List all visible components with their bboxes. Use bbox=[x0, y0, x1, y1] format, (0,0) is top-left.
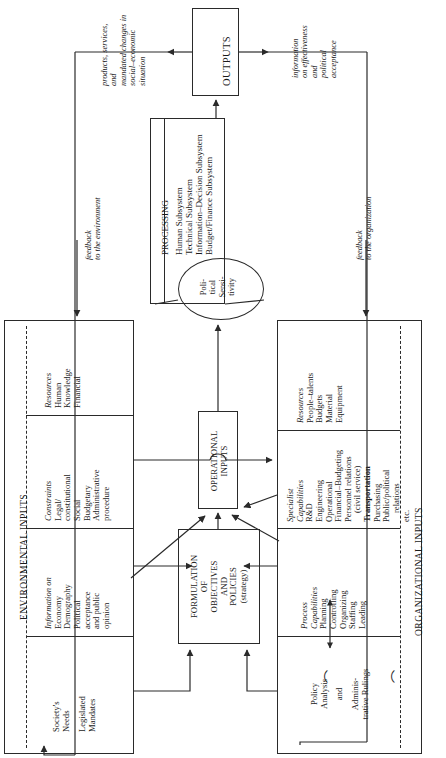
cell-item: Financial bbox=[73, 368, 83, 408]
cell-item: Equipment bbox=[335, 373, 345, 423]
cell-item: Needs bbox=[62, 696, 72, 732]
org-cell-divider bbox=[277, 636, 400, 637]
brace-top-icon: ︵ bbox=[315, 670, 330, 683]
ps-line: Sensi- bbox=[218, 264, 227, 310]
caption-line: acceptance bbox=[329, 25, 338, 78]
cell-item: Leading bbox=[358, 587, 368, 629]
outputs-right-caption: information on effectiveness and politic… bbox=[291, 25, 338, 78]
cell-item: trative Rulings bbox=[361, 655, 371, 733]
caption-line: and bbox=[109, 15, 118, 86]
env-cell-information: Information on Economy Demography Politi… bbox=[44, 577, 111, 629]
caption-line: products, services, bbox=[100, 15, 109, 86]
feedback-line: to the organization bbox=[364, 197, 373, 260]
organizational-inputs-spine-label: ORGANIZATIONAL INPUTS bbox=[414, 507, 425, 636]
arrow-org-resources-to-operational bbox=[244, 495, 277, 507]
ps-line: Poli- bbox=[199, 264, 208, 310]
env-cell-societys-needs: Society's Needs Legislated Mandates bbox=[52, 696, 98, 732]
political-sensitivity-label: Poli- tical Sensi- tivity bbox=[199, 264, 237, 310]
org-cell-divider bbox=[277, 528, 400, 529]
feedback-organization-label: feedback to the organization bbox=[355, 197, 374, 260]
env-cell-resources: Resources Human Knowledge Financial bbox=[44, 368, 83, 408]
feedback-environment-label: feedback to the environment bbox=[84, 198, 103, 261]
oi-line: INPUTS bbox=[220, 419, 230, 503]
feedback-line: feedback bbox=[355, 197, 364, 260]
outputs-box-label: OUTPUTS bbox=[221, 36, 233, 86]
org-cell-divider bbox=[277, 430, 400, 431]
subsystem-item: Information–Decision Subsystem bbox=[194, 134, 204, 255]
caption-line: and bbox=[310, 25, 319, 78]
processing-header: PROCESSING bbox=[160, 200, 170, 255]
ps-line: tivity bbox=[227, 264, 236, 310]
caption-line: on effectiveness bbox=[300, 25, 309, 78]
operational-inputs-label: OPERATIONAL INPUTS bbox=[210, 419, 230, 503]
subsystem-item: Budget/Finance Subsystem bbox=[204, 134, 214, 255]
cell-item: Analysis bbox=[320, 655, 330, 733]
org-cell-process-capabilities: Process Capabilities Planning Controllin… bbox=[300, 587, 367, 629]
env-cell-divider bbox=[26, 636, 134, 637]
outputs-left-caption: products, services, and mandated changes… bbox=[100, 15, 147, 86]
processing-subsystem-list: Human Subsystem Technical Subsystem Info… bbox=[174, 134, 214, 255]
caption-line: mandated changes in bbox=[119, 15, 128, 86]
org-cell-policy-analysis: Policy Analysis and Adminis- trative Rul… bbox=[310, 655, 370, 733]
subsystem-item: Human Subsystem bbox=[174, 134, 184, 255]
feedback-line: feedback bbox=[84, 198, 93, 261]
caption-line: social–economic bbox=[128, 15, 137, 86]
formulation-label: FORMULATION OF OBJECTIVES AND POLICIES (… bbox=[190, 535, 249, 638]
env-cell-divider bbox=[26, 415, 134, 416]
ps-line: tical bbox=[208, 264, 217, 310]
caption-line: situation bbox=[138, 15, 147, 86]
fm-line: (strategy) bbox=[239, 535, 249, 638]
diagram-canvas: OUTPUTS products, services, and mandated… bbox=[0, 0, 446, 758]
org-cell-resources: Resources People–talents Budgets Materia… bbox=[296, 373, 344, 423]
arrow-policy-analysis-to-formulation bbox=[247, 650, 277, 691]
cell-item: and bbox=[335, 655, 345, 733]
arrow-societys-needs-to-formulation bbox=[134, 650, 190, 691]
cell-item: etc. bbox=[402, 450, 412, 522]
org-cell-specialist-capabilities: Specialist Capabilities R&D Engineering … bbox=[286, 450, 411, 522]
environmental-inputs-spine-label: ENVIRONMENTAL INPUTS bbox=[19, 494, 30, 620]
cell-item: Mandates bbox=[88, 696, 98, 732]
caption-line: information bbox=[291, 25, 300, 78]
env-cell-divider bbox=[26, 528, 134, 529]
brace-bottom-icon: ︵ bbox=[382, 670, 397, 683]
subsystem-item: Technical Subsystem bbox=[184, 134, 194, 255]
cell-item: procedure bbox=[102, 469, 112, 521]
cell-item: opinion bbox=[102, 577, 112, 629]
env-cell-constraints: Constraints Legal/ constitutional Social… bbox=[44, 469, 111, 521]
caption-line: political bbox=[319, 25, 328, 78]
feedback-line: to the environment bbox=[93, 198, 102, 261]
organizational-inputs-spine-dash bbox=[400, 326, 401, 748]
